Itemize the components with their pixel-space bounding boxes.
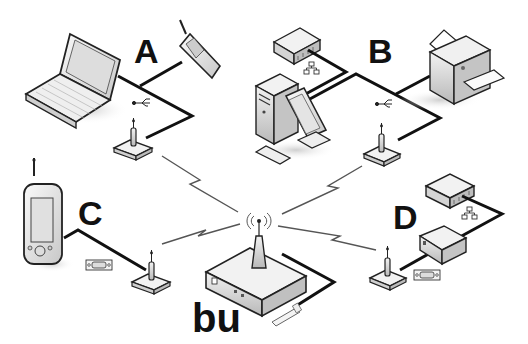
serial-port-icon [86, 260, 112, 270]
desktop-computer-icon[interactable] [256, 74, 336, 164]
group-label-a: A [134, 34, 159, 68]
group-label-d: D [393, 200, 418, 234]
group-label-c: C [78, 196, 103, 230]
usb-icon [375, 100, 392, 107]
usb-icon [132, 99, 150, 106]
cable-a [118, 76, 192, 138]
wireless-links [162, 156, 376, 250]
lan-icon [462, 207, 477, 219]
wireless-link-c [162, 224, 240, 244]
wireless-link-b [282, 166, 362, 214]
network-hub-d-icon[interactable] [426, 174, 474, 208]
mobile-phone-icon[interactable] [180, 20, 220, 78]
base-unit-label: bu [192, 298, 241, 338]
laptop-icon[interactable] [26, 34, 128, 128]
wireless-link-a [162, 156, 238, 212]
wireless-link-d [278, 226, 376, 250]
group-a [26, 20, 220, 160]
serial-port-icon [414, 270, 440, 280]
network-hub-b-icon[interactable] [274, 28, 320, 64]
lan-icon [304, 62, 319, 74]
wireless-adapter-b-icon[interactable] [364, 123, 400, 166]
pda-icon[interactable] [24, 158, 74, 272]
device-box-icon[interactable] [420, 226, 466, 264]
printer-icon[interactable] [400, 30, 504, 110]
group-d [370, 174, 502, 290]
wireless-adapter-c-icon[interactable] [132, 250, 170, 294]
cable-d-hub [458, 196, 502, 238]
group-label-b: B [368, 34, 393, 68]
wireless-adapter-a-icon[interactable] [114, 118, 152, 160]
network-diagram [0, 0, 528, 344]
